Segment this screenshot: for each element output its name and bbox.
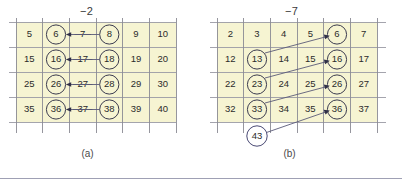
cell-value: 23 [252, 78, 263, 89]
cell-value: 8 [107, 28, 112, 39]
cell-value: 35 [305, 103, 316, 114]
cell-value: 25 [305, 78, 316, 89]
cell-value: 40 [157, 103, 168, 114]
cell-value: 36 [51, 103, 62, 114]
cell-value: 30 [157, 78, 168, 89]
cell-value: 6 [334, 28, 339, 39]
cell-value: 33 [252, 103, 263, 114]
cell-value: 37 [358, 103, 369, 114]
cell-value: 39 [131, 103, 142, 114]
cell-value: 26 [51, 78, 62, 89]
cell-value: 7 [80, 28, 85, 39]
panel-b: −7 2 [201, 0, 402, 186]
bottom-separator-rule [0, 178, 402, 179]
cell-value: 28 [104, 78, 115, 89]
cell-value: 20 [157, 53, 168, 64]
cell-value: 18 [104, 53, 115, 64]
cell-value: 3 [254, 28, 259, 39]
panel-b-caption: (b) [189, 148, 390, 159]
cell-value: 27 [77, 78, 88, 89]
cell-value: 36 [332, 103, 343, 114]
cell-value: 5 [27, 28, 32, 39]
cell-value: 17 [358, 53, 369, 64]
cell-value: 29 [131, 78, 142, 89]
cell-value: 5 [308, 28, 313, 39]
panel-a-caption: (a) [0, 148, 188, 159]
cell-value: 38 [104, 103, 115, 114]
cell-value: 12 [225, 53, 236, 64]
cell-value: 37 [77, 103, 88, 114]
figure-root: −2 5 6 7 8 9 10 [0, 0, 402, 186]
cell-value: 26 [332, 78, 343, 89]
cell-value: 15 [305, 53, 316, 64]
cell-value: 34 [278, 103, 289, 114]
cell-value: 24 [278, 78, 289, 89]
cell-value: 2 [228, 28, 233, 39]
cell-value: 16 [51, 53, 62, 64]
cell-value: 6 [53, 28, 58, 39]
cell-value: 16 [332, 53, 343, 64]
cell-value: 14 [278, 53, 289, 64]
cell-value: 10 [157, 28, 168, 39]
cell-value: 27 [358, 78, 369, 89]
cell-value: 19 [131, 53, 142, 64]
cell-value: 13 [252, 53, 263, 64]
cell-value: 7 [361, 28, 366, 39]
cell-value: 22 [225, 78, 236, 89]
cell-value: 9 [133, 28, 138, 39]
panel-a: −2 5 6 7 8 9 10 [0, 0, 201, 186]
free-node-value: 43 [252, 130, 263, 141]
cell-value: 32 [225, 103, 236, 114]
cell-value: 4 [281, 28, 286, 39]
cell-value: 15 [24, 53, 35, 64]
cell-value: 35 [24, 103, 35, 114]
cell-value: 17 [77, 53, 88, 64]
cell-value: 25 [24, 78, 35, 89]
